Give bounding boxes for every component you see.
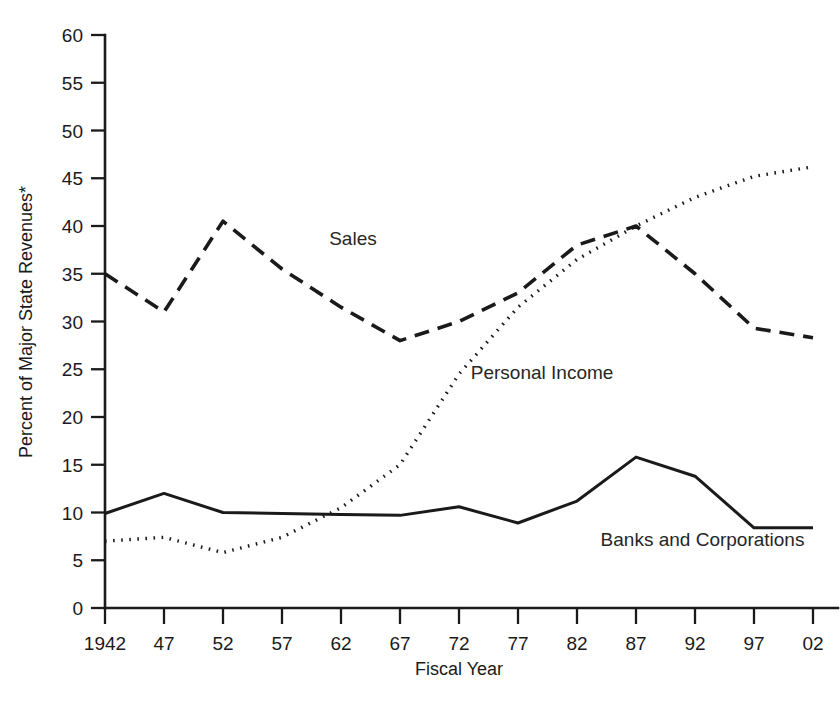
x-axis: 1942475257626772778287929702 <box>84 608 838 654</box>
x-axis-tick-label: 52 <box>212 633 233 654</box>
x-axis-tick-label: 82 <box>566 633 587 654</box>
y-axis-tick-label: 25 <box>62 359 83 380</box>
x-axis-tick-label: 57 <box>271 633 292 654</box>
y-axis-tick-label: 50 <box>62 121 83 142</box>
x-axis-tick-label: 02 <box>802 633 823 654</box>
x-axis-tick-label: 87 <box>625 633 646 654</box>
y-axis-tick-label: 40 <box>62 216 83 237</box>
y-axis-tick-label: 5 <box>72 550 83 571</box>
y-axis: 051015202530354045505560 <box>62 25 105 619</box>
x-axis-tick-label: 67 <box>389 633 410 654</box>
y-axis-tick-label: 60 <box>62 25 83 46</box>
y-axis-tick-label: 15 <box>62 455 83 476</box>
y-axis-tick-label: 35 <box>62 264 83 285</box>
x-axis-tick-label: 77 <box>507 633 528 654</box>
y-axis-tick-label: 0 <box>72 598 83 619</box>
x-axis-title: Fiscal Year <box>415 659 503 679</box>
y-axis-title: Percent of Major State Revenues* <box>16 186 36 458</box>
x-axis-tick-label: 62 <box>330 633 351 654</box>
y-axis-tick-label: 20 <box>62 407 83 428</box>
x-axis-tick-label: 72 <box>448 633 469 654</box>
y-axis-tick-label: 45 <box>62 168 83 189</box>
series-line-banks-and-corporations <box>105 457 813 528</box>
y-axis-tick-label: 30 <box>62 312 83 333</box>
series-label-sales: Sales <box>329 228 377 249</box>
x-axis-tick-label: 1942 <box>84 633 126 654</box>
x-axis-tick-label: 92 <box>684 633 705 654</box>
series-label-banks-and-corporations: Banks and Corporations <box>601 529 805 550</box>
series-line-sales <box>105 221 813 340</box>
x-axis-tick-label: 97 <box>743 633 764 654</box>
series-line-personal-income <box>105 167 813 553</box>
x-axis-tick-label: 47 <box>153 633 174 654</box>
series-label-personal-income: Personal Income <box>471 362 614 383</box>
chart-container: 051015202530354045505560 194247525762677… <box>0 0 840 705</box>
y-axis-tick-label: 10 <box>62 503 83 524</box>
series-labels: SalesPersonal IncomeBanks and Corporatio… <box>329 228 804 550</box>
y-axis-tick-label: 55 <box>62 73 83 94</box>
series-layer <box>105 167 813 553</box>
line-chart: 051015202530354045505560 194247525762677… <box>0 0 840 705</box>
